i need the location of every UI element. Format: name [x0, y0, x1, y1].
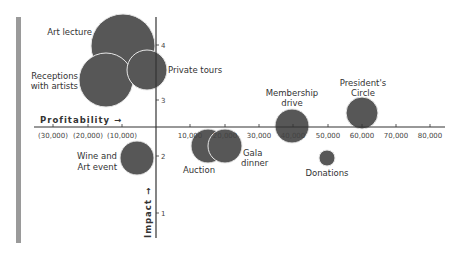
- label-auction: Auction: [183, 165, 215, 175]
- label-receptions-line1: Receptions: [31, 71, 78, 81]
- y-tick-label: 1: [161, 210, 165, 218]
- label-membership-line1: Membership: [266, 88, 319, 98]
- x-tick-label: (20,000): [73, 132, 103, 140]
- x-tick-label: (10,000): [107, 132, 137, 140]
- x-tick-label: 50,000: [316, 132, 341, 140]
- label-gala-line2: dinner: [241, 158, 269, 168]
- x-tick-label: 20,000: [213, 132, 238, 140]
- x-tick-label: 70,000: [384, 132, 409, 140]
- label-gala-line1: Gala: [243, 148, 262, 158]
- x-tick-label: 30,000: [247, 132, 272, 140]
- x-tick-label: 80,000: [418, 132, 443, 140]
- label-wine-line1: Wine and: [77, 151, 117, 161]
- label-membership-line2: drive: [281, 98, 303, 108]
- y-tick-label: 2: [161, 153, 165, 161]
- bubble-private-tours: [127, 50, 167, 90]
- label-donations: Donations: [305, 168, 349, 178]
- y-tick-label: 4: [161, 42, 166, 50]
- label-presidents-line2: Circle: [351, 88, 375, 98]
- label-wine-line2: Art event: [77, 162, 117, 172]
- bubble-donations: [319, 150, 335, 166]
- y-axis-title: Impact →: [143, 187, 153, 238]
- y-tick-label: 3: [161, 97, 165, 105]
- label-receptions-line2: with artists: [31, 81, 79, 91]
- x-axis-title: Profitability →: [40, 115, 122, 125]
- bubbles: [79, 14, 378, 175]
- bubble-chart: (30,000) (20,000) (10,000) 10,000 20,000…: [0, 0, 460, 266]
- x-tick-label: 40,000: [281, 132, 306, 140]
- x-tick-label: 60,000: [350, 132, 375, 140]
- bubble-receptions-with-artists: [79, 53, 133, 107]
- x-tick-label: (30,000): [38, 132, 68, 140]
- label-art-lecture: Art lecture: [47, 27, 92, 37]
- x-tick-label: 10,000: [178, 132, 203, 140]
- label-presidents-line1: President's: [340, 78, 387, 88]
- label-private-tours: Private tours: [168, 65, 223, 75]
- bubble-wine-and-art-event: [120, 141, 154, 175]
